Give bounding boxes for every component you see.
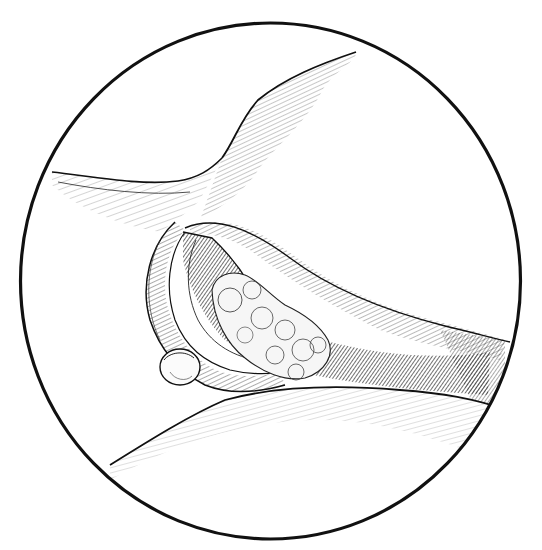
illustration-canvas: [0, 0, 542, 550]
lower-surface: [110, 387, 512, 480]
anatomical-illustration: [0, 0, 542, 550]
left-flap: [52, 158, 222, 232]
small-nodule: [160, 349, 200, 385]
